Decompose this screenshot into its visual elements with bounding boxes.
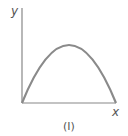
y-axis-label: y: [11, 5, 18, 17]
figure-caption: (I): [63, 121, 75, 132]
x-axis-label: x: [112, 106, 119, 118]
parabola-curve: [22, 45, 116, 103]
figure: y x (I): [0, 0, 128, 136]
chart-canvas: [0, 0, 128, 136]
